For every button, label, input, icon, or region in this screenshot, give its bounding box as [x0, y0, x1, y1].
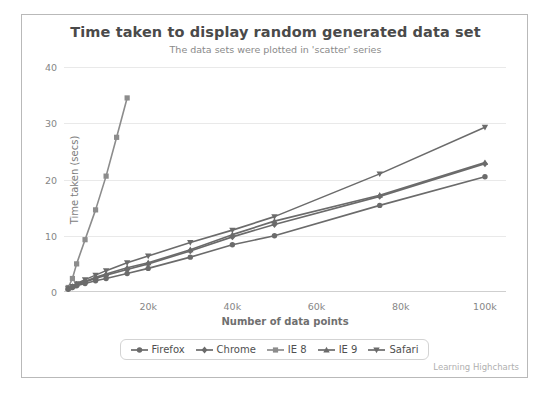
- data-point-marker: [125, 95, 130, 100]
- data-point-marker: [273, 347, 278, 352]
- data-point-marker: [377, 203, 382, 208]
- data-point-marker: [82, 237, 87, 242]
- data-point-marker: [482, 159, 488, 165]
- chart-legend[interactable]: FirefoxChromeIE 8IE 9Safari: [120, 339, 430, 360]
- y-tick-label: 10: [45, 230, 57, 241]
- credits-text: Learning Highcharts: [433, 362, 519, 372]
- legend-item-ie-9[interactable]: IE 9: [318, 344, 358, 355]
- data-point-marker: [230, 242, 235, 247]
- y-tick-label: 20: [45, 174, 57, 185]
- data-point-marker: [103, 174, 108, 179]
- plot-area: 010203040 20k40k60k80k100k Time taken (s…: [64, 67, 506, 292]
- series-ie-8: [66, 95, 130, 290]
- data-point-marker: [136, 347, 141, 352]
- y-tick-label: 0: [51, 287, 57, 298]
- chart-title: Time taken to display random generated d…: [22, 24, 529, 40]
- y-tick-label: 30: [45, 118, 57, 129]
- legend-label: Safari: [389, 344, 418, 355]
- data-point-marker: [93, 207, 98, 212]
- data-point-marker: [70, 276, 75, 281]
- series-line: [68, 177, 485, 290]
- data-point-marker: [272, 233, 277, 238]
- diamond-marker-icon: [196, 345, 213, 355]
- data-point-marker: [482, 174, 487, 179]
- square-marker-icon: [267, 345, 284, 355]
- series-plot: [64, 67, 506, 292]
- legend-label: Firefox: [152, 344, 185, 355]
- x-tick-label: 40k: [224, 301, 242, 312]
- triangle-down-marker-icon: [368, 345, 385, 355]
- series-line: [68, 98, 127, 288]
- chart-container: Time taken to display random generated d…: [21, 14, 528, 378]
- legend-label: IE 8: [288, 344, 307, 355]
- legend-label: IE 9: [339, 344, 358, 355]
- x-tick-label: 60k: [308, 301, 326, 312]
- chart-screenshot: Time taken to display random generated d…: [0, 0, 547, 398]
- series-line: [68, 127, 485, 288]
- series-firefox: [66, 174, 488, 292]
- chart-subtitle: The data sets were plotted in 'scatter' …: [22, 44, 529, 55]
- data-point-marker: [188, 254, 193, 259]
- legend-label: Chrome: [217, 344, 256, 355]
- data-point-marker: [114, 135, 119, 140]
- data-point-marker: [201, 346, 207, 353]
- legend-item-ie-8[interactable]: IE 8: [267, 344, 307, 355]
- x-tick-label: 20k: [139, 301, 157, 312]
- x-tick-label: 80k: [392, 301, 410, 312]
- circle-marker-icon: [131, 345, 148, 355]
- legend-item-firefox[interactable]: Firefox: [131, 344, 185, 355]
- legend-item-chrome[interactable]: Chrome: [196, 344, 256, 355]
- data-point-marker: [74, 261, 79, 266]
- triangle-marker-icon: [318, 345, 335, 355]
- x-tick-label: 100k: [473, 301, 497, 312]
- legend-item-safari[interactable]: Safari: [368, 344, 418, 355]
- y-tick-label: 40: [45, 62, 57, 73]
- x-axis-label: Number of data points: [64, 316, 506, 327]
